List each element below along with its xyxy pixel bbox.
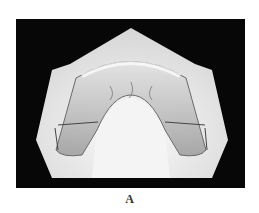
dental-appliance-photo — [0, 0, 259, 213]
figure-label: A — [0, 192, 259, 207]
